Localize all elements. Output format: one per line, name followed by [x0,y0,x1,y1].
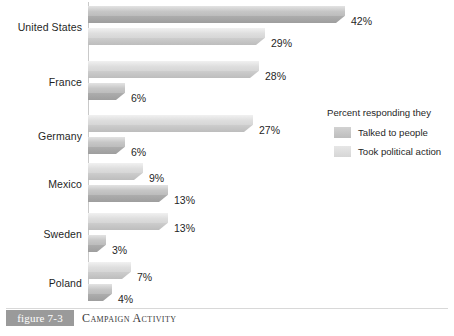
bar-front-face [88,125,253,132]
bar-front-face [88,147,125,154]
bar-top-face [88,213,168,223]
value-label-sweden-action: 3% [112,245,127,256]
bar-mexico-talked [88,163,143,180]
bar-front-face [88,93,125,100]
value-label-united-states-action: 29% [271,38,292,49]
bar-mexico-action [88,185,168,202]
bar-top-face [88,6,345,16]
figure-title: Campaign Activity [82,310,176,326]
bar-united-states-talked [88,6,345,23]
bar-group-mexico: Mexico 9% 13% [0,163,454,209]
bar-shape [88,262,131,279]
bar-front-face [88,38,265,45]
category-label-poland: Poland [0,278,82,289]
bar-united-states-action [88,28,265,45]
bar-shape [88,6,345,23]
value-label-france-action: 6% [131,93,146,104]
legend-title: Percent responding they [327,107,454,119]
bar-chart-plot-area: United States 42% 29% France [0,0,454,305]
category-label-united-states: United States [0,22,82,33]
caption-divider [6,308,448,309]
bar-top-face [88,235,106,245]
bar-sweden-action [88,235,106,252]
bar-sweden-talked [88,213,168,230]
value-label-germany-action: 6% [131,147,146,158]
bar-shape [88,115,253,132]
bar-shape [88,163,143,180]
bar-top-face [88,262,131,272]
legend-swatch-icon-talked [334,127,351,138]
bar-france-talked [88,61,259,78]
value-label-united-states-talked: 42% [351,16,372,27]
bar-top-face [88,137,125,147]
bar-shape [88,185,168,202]
bar-group-united-states: United States 42% 29% [0,6,454,52]
bar-front-face [88,173,143,180]
bar-top-face [88,284,112,294]
bar-shape [88,28,265,45]
bar-group-sweden: Sweden 13% 3% [0,213,454,259]
legend-label-action: Took political action [358,146,441,158]
legend-label-talked: Talked to people [358,127,428,139]
legend-item-talked-to-people: Talked to people [327,125,454,140]
bar-top-face [88,28,265,38]
value-label-sweden-talked: 13% [174,223,195,234]
bar-shape [88,213,168,230]
value-label-poland-talked: 7% [137,272,152,283]
bar-poland-action [88,284,112,301]
value-label-mexico-talked: 9% [149,173,164,184]
category-label-mexico: Mexico [0,179,82,190]
value-label-mexico-action: 13% [174,195,195,206]
bar-top-face [88,163,143,173]
bar-front-face [88,272,131,279]
bar-top-face [88,83,125,93]
bar-front-face [88,245,106,252]
bar-shape [88,284,112,301]
value-label-france-talked: 28% [265,71,286,82]
bar-shape [88,235,106,252]
chart-legend: Percent responding they Talked to people… [327,107,454,163]
figure-campaign-activity: United States 42% 29% France [0,0,454,336]
bar-germany-talked [88,115,253,132]
bar-front-face [88,195,168,202]
bar-top-face [88,61,259,71]
bar-poland-talked [88,262,131,279]
bar-shape [88,61,259,78]
bar-front-face [88,223,168,230]
bar-shape [88,83,125,100]
bar-front-face [88,294,112,301]
bar-front-face [88,16,345,23]
category-label-france: France [0,77,82,88]
value-label-poland-action: 4% [118,294,133,305]
bar-front-face [88,71,259,78]
figure-caption: figure 7-3 Campaign Activity [0,308,454,328]
legend-item-took-political-action: Took political action [327,144,454,159]
value-label-germany-talked: 27% [259,125,280,136]
category-label-sweden: Sweden [0,229,82,240]
legend-swatch-icon-action [334,146,351,157]
figure-number-tag: figure 7-3 [6,310,74,326]
bar-top-face [88,185,168,195]
bar-germany-action [88,137,125,154]
bar-group-france: France 28% 6% [0,61,454,107]
bar-shape [88,137,125,154]
bar-top-face [88,115,253,125]
bar-group-poland: Poland 7% 4% [0,262,454,308]
category-label-germany: Germany [0,131,82,142]
bar-france-action [88,83,125,100]
